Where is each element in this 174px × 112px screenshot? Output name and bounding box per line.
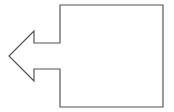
left-arrow-callout-shape [9,5,163,107]
diagram-svg [0,0,174,112]
diagram-canvas [0,0,174,112]
